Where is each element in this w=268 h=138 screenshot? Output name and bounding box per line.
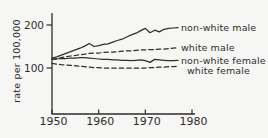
series-label-white-male: white male <box>181 42 235 53</box>
series-label-non-white-male: non-white male <box>181 22 256 33</box>
series-line-white-female <box>52 63 178 68</box>
plot-area: 1002001950196019701980non-white malewhit… <box>0 0 268 138</box>
y-tick-label: 100 <box>24 62 44 74</box>
x-tick-label: 1980 <box>180 115 208 128</box>
chart-figure: rate per 100,000 1002001950196019701980n… <box>0 0 268 138</box>
x-tick-label: 1970 <box>133 115 161 128</box>
series-line-non-white-male <box>52 28 178 58</box>
x-tick-label: 1950 <box>40 115 68 128</box>
series-label-white-female: white female <box>187 65 250 76</box>
y-tick-label: 200 <box>24 19 44 31</box>
series-line-non-white-female <box>52 58 178 63</box>
x-tick-label: 1960 <box>86 115 114 128</box>
